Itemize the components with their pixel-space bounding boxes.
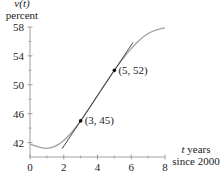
ticks: 024684246505458 — [13, 21, 168, 173]
x-axis-label-line2: since 2000 — [172, 155, 220, 167]
y-tick-label: 50 — [13, 79, 25, 91]
y-tick-label: 58 — [13, 21, 25, 33]
y-tick-label: 54 — [13, 50, 25, 62]
x-tick-label: 6 — [129, 161, 135, 173]
data-point — [79, 119, 83, 123]
series — [30, 28, 165, 149]
y-tick-label: 46 — [13, 108, 25, 120]
point-label: (5, 52) — [118, 64, 148, 77]
points: (3, 45)(5, 52) — [79, 64, 148, 128]
x-tick-label: 8 — [162, 161, 168, 173]
chart: 024684246505458 (3, 45)(5, 52) v(t) perc… — [0, 0, 222, 176]
point-label: (3, 45) — [85, 114, 115, 127]
x-tick-label: 4 — [95, 161, 101, 173]
y-tick-label: 42 — [13, 137, 24, 149]
x-axis-label-line1: t years — [181, 143, 210, 155]
data-point — [113, 69, 117, 73]
x-tick-label: 2 — [61, 161, 67, 173]
curve-v-of-t — [30, 28, 165, 149]
secant-line — [62, 43, 133, 149]
x-tick-label: 0 — [27, 161, 33, 173]
y-axis-label-bottom: percent — [6, 9, 38, 21]
x-axis-label-rest: years — [185, 143, 211, 155]
axes — [30, 27, 165, 157]
